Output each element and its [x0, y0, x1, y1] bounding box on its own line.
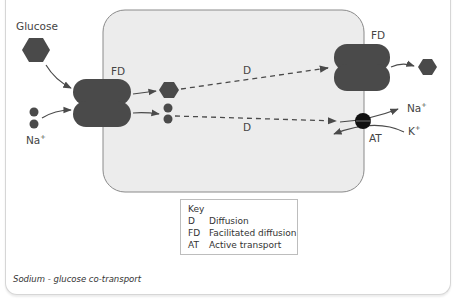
legend-abbr: AT [188, 239, 209, 251]
label-na-left-sup: + [40, 133, 45, 141]
label-na-left: Na+ [26, 135, 46, 146]
arrow-glucose-exit [391, 64, 414, 67]
label-na-right-text: Na [407, 102, 421, 114]
glucose-hexagon-icon [22, 38, 50, 62]
legend-meaning: Active transport [209, 239, 281, 251]
sodium-inside-icon [164, 115, 173, 124]
figure-caption: Sodium - glucose co-transport [13, 274, 141, 284]
label-fd-left: FD [111, 66, 125, 77]
legend-item: FD Facilitated diffusion [188, 227, 297, 239]
glucose-outside-right-hexagon-icon [418, 59, 437, 75]
legend-key: Key D Diffusion FD Facilitated diffusion… [180, 199, 298, 255]
sodium-ion-icon [30, 108, 39, 117]
sodium-inside-icon [164, 104, 173, 113]
label-diffusion-bottom: D [243, 122, 251, 133]
label-k-right: K+ [408, 126, 420, 137]
label-diffusion-top: D [243, 65, 251, 76]
legend-item: D Diffusion [188, 215, 297, 227]
diagram-canvas [0, 0, 460, 302]
legend-abbr: FD [188, 227, 209, 239]
label-na-left-text: Na [26, 134, 40, 146]
label-k-right-text: K [408, 125, 415, 137]
legend-meaning: Diffusion [209, 215, 249, 227]
label-active-transport: AT [369, 133, 382, 144]
label-na-right: Na+ [407, 103, 427, 114]
arrow-glucose-in [46, 65, 71, 88]
legend-meaning: Facilitated diffusion [209, 227, 297, 239]
arrow-sodium-in [42, 110, 71, 118]
sodium-ion-icon [30, 120, 39, 129]
label-glucose: Glucose [16, 21, 58, 32]
legend-abbr: D [188, 215, 209, 227]
cell-body [103, 10, 364, 192]
label-fd-right: FD [371, 30, 385, 41]
legend-heading: Key [188, 203, 297, 215]
legend-item: AT Active transport [188, 239, 297, 251]
label-na-right-sup: + [421, 101, 426, 109]
label-k-right-sup: + [415, 124, 420, 132]
fd-carrier-left-icon [73, 79, 131, 127]
fd-carrier-right-icon [334, 44, 390, 91]
